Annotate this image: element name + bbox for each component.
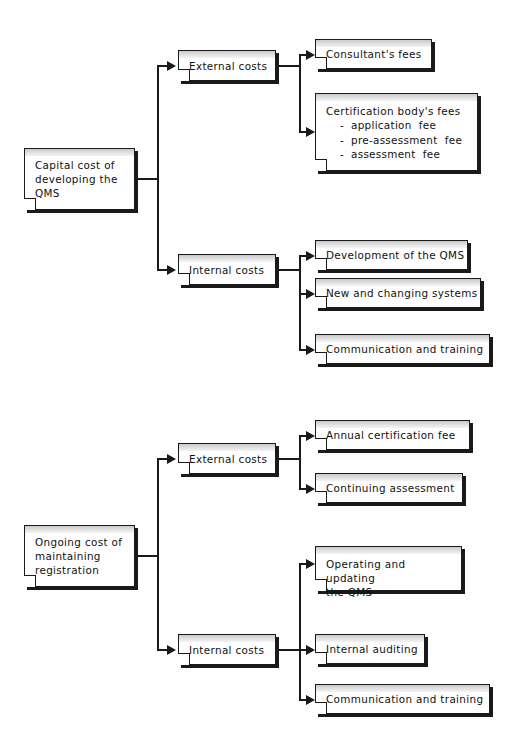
node-operating-and-updating-qms: Operating and updating the QMS [315, 546, 462, 591]
node-consultants-fees: Consultant's fees [315, 39, 432, 69]
node-capital-internal-costs: Internal costs [178, 254, 276, 285]
node-capital-internal-costs-label: Internal costs [179, 263, 275, 277]
node-communication-and-training-capital-label: Communication and training [316, 342, 489, 356]
connector-ongoing-trunk [157, 458, 159, 650]
list-item-label: assessment fee [351, 148, 440, 160]
arrow-ongoing-to-internal [167, 645, 176, 655]
node-ongoing-internal-costs-label: Internal costs [179, 643, 275, 657]
connector-ongoing-internal-bus [299, 563, 301, 700]
arrow-ongoing-internal-to-communication [306, 695, 315, 705]
connector-ongoing-root-stem [138, 555, 158, 557]
node-capital-external-costs: External costs [178, 50, 276, 81]
node-certification-body-fees: Certification body's fees -application f… [315, 93, 478, 171]
arrow-capital-external-to-certification [306, 127, 315, 137]
list-bullet: - [340, 133, 351, 148]
node-new-and-changing-systems: New and changing systems [315, 278, 481, 308]
certification-fees-list: -application fee -pre-assessment fee -as… [326, 118, 469, 162]
connector-capital-external-bus [299, 54, 301, 132]
list-bullet: - [340, 118, 351, 133]
list-item-label: pre-assessment fee [351, 134, 462, 146]
node-ongoing-cost-root: Ongoing cost of maintaining registration [24, 525, 135, 587]
list-item: -pre-assessment fee [326, 133, 469, 148]
node-capital-cost-root: Capital cost of developing the QMS [24, 148, 135, 210]
arrow-capital-internal-to-newsystems [306, 289, 315, 299]
node-communication-and-training-capital: Communication and training [315, 334, 490, 364]
connector-capital-internal-bus [299, 255, 301, 350]
connector-capital-internal-stem [279, 269, 300, 271]
connector-capital-external-stem [279, 65, 300, 67]
node-operating-and-updating-qms-label: Operating and updating the QMS [326, 557, 453, 599]
node-certification-body-fees-label: Certification body's fees [326, 104, 469, 118]
node-capital-external-costs-label: External costs [179, 59, 275, 73]
node-ongoing-internal-costs: Internal costs [178, 634, 276, 665]
cost-tree-diagram: Capital cost of developing the QMS Exter… [0, 0, 511, 743]
list-bullet: - [340, 147, 351, 162]
arrow-ongoing-to-external [167, 454, 176, 464]
node-development-of-qms: Development of the QMS [315, 240, 468, 270]
node-annual-certification-fee-label: Annual certification fee [316, 428, 469, 442]
arrow-ongoing-internal-to-auditing [306, 645, 315, 655]
connector-ongoing-external-bus [299, 435, 301, 489]
list-item-label: application fee [351, 119, 436, 131]
arrow-capital-internal-to-development [306, 251, 315, 261]
arrow-ongoing-external-to-continuing [306, 484, 315, 494]
node-annual-certification-fee: Annual certification fee [315, 420, 470, 450]
arrow-capital-internal-to-communication [306, 345, 315, 355]
arrow-capital-to-internal [167, 265, 176, 275]
arrow-capital-to-external [167, 61, 176, 71]
node-development-of-qms-label: Development of the QMS [316, 248, 467, 262]
arrow-capital-external-to-consultants [306, 50, 315, 60]
list-item: -application fee [326, 118, 469, 133]
connector-capital-trunk [157, 65, 159, 270]
node-continuing-assessment: Continuing assessment [315, 473, 463, 503]
node-ongoing-external-costs-label: External costs [179, 452, 275, 466]
node-consultants-fees-label: Consultant's fees [316, 47, 431, 61]
node-internal-auditing: Internal auditing [315, 634, 425, 664]
node-ongoing-cost-root-label: Ongoing cost of maintaining registration [35, 535, 125, 577]
node-continuing-assessment-label: Continuing assessment [316, 481, 462, 495]
connector-capital-root-stem [138, 178, 158, 180]
arrow-ongoing-internal-to-operating [306, 559, 315, 569]
connector-ongoing-internal-stem [279, 649, 300, 651]
node-communication-and-training-ongoing: Communication and training [315, 684, 490, 714]
node-communication-and-training-ongoing-label: Communication and training [316, 692, 489, 706]
arrow-ongoing-external-to-annualfee [306, 431, 315, 441]
node-internal-auditing-label: Internal auditing [316, 642, 424, 656]
node-capital-cost-root-label: Capital cost of developing the QMS [35, 158, 125, 200]
node-new-and-changing-systems-label: New and changing systems [316, 286, 480, 300]
connector-ongoing-external-stem [279, 458, 300, 460]
node-ongoing-external-costs: External costs [178, 443, 276, 474]
list-item: -assessment fee [326, 147, 469, 162]
